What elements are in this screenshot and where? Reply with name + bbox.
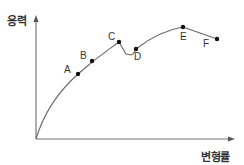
point-f-marker [215, 37, 219, 41]
point-c-label: C [108, 31, 115, 42]
point-a-label: A [64, 64, 71, 75]
point-f-label: F [203, 38, 209, 49]
point-e-marker [181, 25, 185, 29]
point-d-label: D [134, 51, 141, 62]
point-a-marker [76, 72, 80, 76]
point-b-marker [90, 59, 94, 63]
point-e-label: E [180, 31, 187, 42]
stress-strain-chart [0, 0, 244, 165]
point-b-label: B [80, 50, 87, 61]
stress-strain-curve [36, 27, 217, 139]
x-axis-label: 변형률 [201, 148, 230, 164]
y-axis-label: 응력 [7, 12, 26, 28]
y-axis-arrow-icon [34, 15, 39, 22]
point-c-marker [117, 40, 121, 44]
x-axis-arrow-icon [228, 137, 235, 142]
